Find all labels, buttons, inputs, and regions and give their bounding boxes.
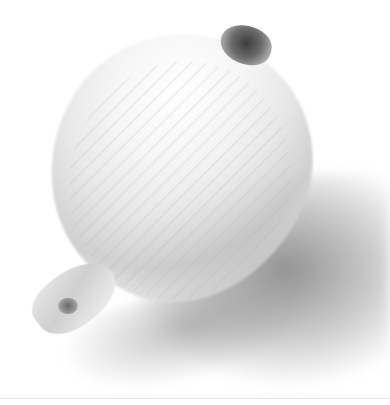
- onion-photo: [0, 0, 390, 405]
- bottom-border: [0, 398, 390, 399]
- onion-neck-tip: [58, 298, 78, 314]
